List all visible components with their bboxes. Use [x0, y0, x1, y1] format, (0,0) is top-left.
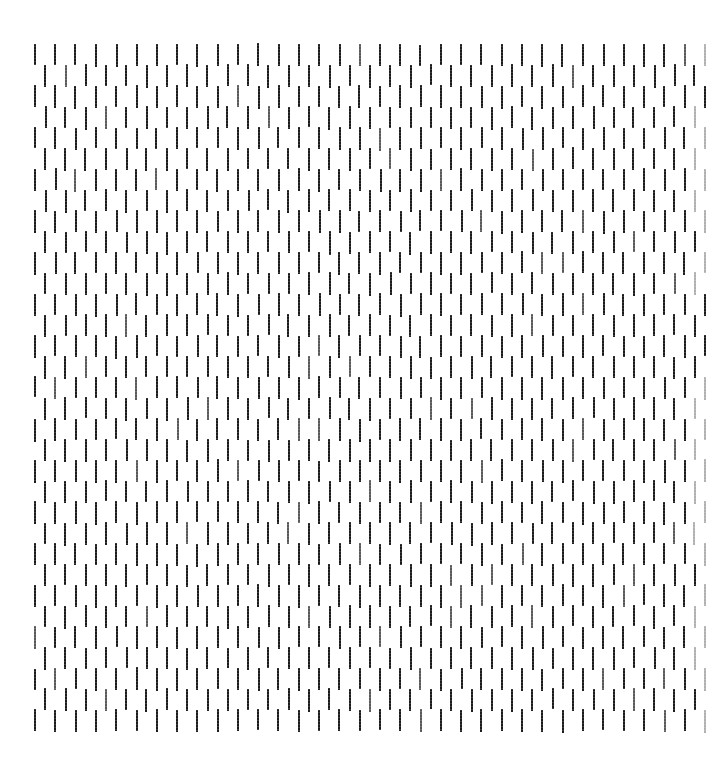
dash-mark — [420, 169, 422, 192]
dash-mark — [673, 481, 675, 503]
dash-mark — [125, 564, 127, 587]
dash-mark — [379, 626, 381, 647]
dash-mark — [339, 418, 341, 441]
dash-mark — [54, 502, 56, 524]
dash-mark — [613, 356, 615, 378]
dash-mark — [288, 481, 290, 503]
dash-mark — [613, 315, 615, 337]
dash-mark — [278, 293, 280, 316]
dash-mark — [156, 376, 158, 397]
dash-mark — [216, 169, 218, 192]
dash-mark — [440, 44, 442, 65]
dash-mark — [572, 106, 574, 128]
dash-mark — [491, 65, 493, 87]
dash-mark — [146, 231, 148, 254]
dash-mark — [34, 709, 36, 731]
dash-mark — [217, 127, 219, 148]
dash-mark — [267, 522, 269, 544]
dash-mark — [267, 65, 269, 87]
dash-mark — [318, 335, 320, 356]
dash-mark — [105, 606, 107, 628]
dash-mark — [146, 273, 148, 296]
dash-mark — [592, 231, 594, 253]
dash-mark — [64, 606, 66, 629]
dash-mark — [440, 460, 442, 482]
dash-mark — [349, 189, 351, 211]
dash-mark — [379, 128, 381, 151]
dash-mark — [44, 315, 46, 338]
dash-mark — [531, 605, 533, 628]
dash-mark — [633, 480, 635, 502]
dash-mark — [166, 564, 168, 586]
dash-mark — [501, 377, 503, 400]
dash-mark — [74, 252, 76, 274]
dash-mark — [399, 44, 401, 65]
dash-mark — [622, 252, 624, 275]
dash-mark — [551, 356, 553, 379]
dash-mark — [237, 252, 239, 274]
dash-mark — [288, 107, 290, 130]
dash-mark — [430, 397, 432, 419]
dash-mark — [410, 398, 412, 420]
dash-mark — [633, 647, 635, 669]
dash-mark — [237, 377, 239, 399]
dash-mark — [136, 502, 138, 525]
dash-mark — [308, 231, 310, 252]
dash-mark — [389, 564, 391, 587]
dash-mark — [166, 480, 168, 502]
dash-mark — [470, 231, 472, 253]
dash-mark — [54, 85, 56, 107]
dash-mark — [338, 252, 340, 275]
dash-mark — [247, 523, 249, 544]
dash-mark — [684, 709, 686, 731]
dash-mark — [349, 564, 351, 585]
dash-mark — [410, 189, 412, 211]
dash-mark — [592, 148, 594, 170]
dash-mark — [369, 273, 371, 296]
dash-mark — [622, 294, 624, 316]
dash-mark — [329, 356, 331, 379]
dash-mark — [582, 210, 584, 233]
dash-mark — [389, 315, 391, 336]
dash-mark — [511, 522, 513, 544]
dash-mark — [85, 564, 87, 586]
dash-mark — [572, 480, 574, 501]
dash-mark — [633, 522, 635, 544]
dash-mark — [613, 647, 615, 670]
dash-mark — [176, 501, 178, 522]
dash-mark — [481, 252, 483, 274]
dash-mark — [166, 522, 168, 544]
dash-mark — [136, 543, 138, 566]
dash-mark — [339, 44, 341, 66]
dash-mark — [521, 44, 523, 66]
dash-mark — [389, 522, 391, 544]
dash-mark — [501, 626, 503, 647]
dash-mark — [623, 668, 625, 689]
dash-mark — [674, 64, 676, 86]
dash-mark — [582, 44, 584, 66]
dash-mark — [258, 127, 260, 149]
dash-mark — [582, 502, 584, 525]
dash-mark — [532, 232, 534, 255]
dash-mark — [491, 397, 493, 420]
dash-mark — [227, 190, 229, 211]
dash-mark — [430, 648, 432, 669]
dash-mark — [684, 294, 686, 315]
dash-mark — [227, 439, 229, 460]
dash-mark — [491, 315, 493, 337]
dash-mark — [643, 584, 645, 605]
dash-mark — [694, 647, 696, 670]
dash-mark — [592, 647, 594, 669]
dash-mark — [237, 169, 239, 190]
dash-mark — [257, 419, 259, 441]
dash-mark — [674, 273, 676, 294]
dash-mark — [329, 272, 331, 294]
dash-mark — [125, 398, 127, 421]
dash-mark — [704, 252, 706, 273]
dash-mark — [613, 148, 615, 170]
dash-mark — [287, 522, 289, 544]
dash-mark — [65, 65, 67, 88]
dash-mark — [673, 522, 675, 544]
dash-mark — [95, 294, 97, 317]
dash-mark — [460, 377, 462, 399]
